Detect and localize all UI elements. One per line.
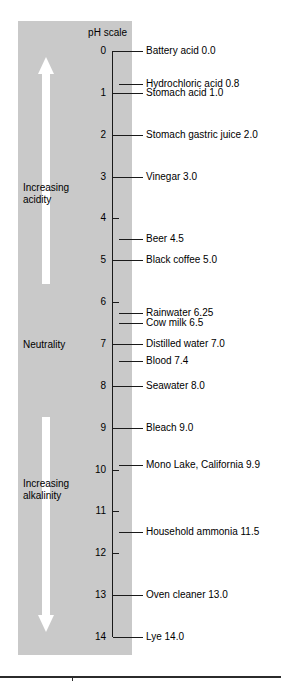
ph-axis-tick [113, 302, 119, 303]
ph-axis-tick-label: 0 [72, 46, 106, 56]
substance-leader-line [119, 135, 143, 136]
substance-label: Stomach gastric juice 2.0 [146, 130, 258, 140]
arrow-down-shaft [42, 417, 50, 617]
substance-label: Black coffee 5.0 [146, 255, 217, 265]
ph-axis-tick-label: 8 [72, 381, 106, 391]
substance-leader-line [119, 361, 143, 362]
substance-leader-line [119, 428, 143, 429]
annotation-increasing-alkalinity-line1: Increasing [23, 478, 95, 490]
substance-leader-line [119, 260, 143, 261]
ph-axis-tick-label: 10 [72, 465, 106, 475]
ph-axis-tick-label: 2 [72, 130, 106, 140]
substance-label: Oven cleaner 13.0 [146, 590, 228, 600]
ph-axis-tick-label: 3 [72, 172, 106, 182]
ph-axis-tick [113, 511, 119, 512]
substance-label: Household ammonia 11.5 [146, 527, 259, 537]
footer-divider-tick [72, 677, 73, 681]
substance-label: Distilled water 7.0 [146, 339, 225, 349]
substance-label: Mono Lake, California 9.9 [146, 460, 260, 470]
ph-axis-tick-label: 14 [72, 632, 106, 642]
substance-label: Lye 14.0 [146, 632, 184, 642]
substance-leader-line [119, 595, 143, 596]
ph-axis-tick-label: 4 [72, 213, 106, 223]
increasing-alkalinity-arrow-icon [38, 417, 54, 632]
substance-leader-line [119, 51, 143, 52]
substance-leader-line [119, 386, 143, 387]
substance-leader-line [119, 637, 143, 638]
ph-scale-panel [18, 21, 132, 655]
ph-axis-tick-label: 12 [72, 548, 106, 558]
substance-label: Cow milk 6.5 [146, 318, 203, 328]
substance-leader-line [119, 313, 143, 314]
substance-leader-line [119, 465, 143, 466]
increasing-acidity-arrow-icon [38, 57, 54, 284]
ph-axis-tick-label: 7 [72, 339, 106, 349]
ph-scale-title: pH scale [55, 27, 127, 39]
annotation-increasing-acidity: Increasing acidity [23, 182, 95, 205]
annotation-increasing-acidity-line2: acidity [23, 194, 95, 206]
annotation-increasing-alkalinity: Increasing alkalinity [23, 478, 95, 501]
substance-label: Stomach acid 1.0 [146, 88, 223, 98]
ph-axis-tick-label: 13 [72, 590, 106, 600]
substance-leader-line [119, 323, 143, 324]
substance-label: Beer 4.5 [146, 234, 184, 244]
substance-leader-line [119, 177, 143, 178]
arrow-up-shaft [42, 72, 50, 284]
substance-leader-line [119, 84, 143, 85]
ph-axis-tick [113, 218, 119, 219]
substance-label: Vinegar 3.0 [146, 172, 197, 182]
substance-label: Battery acid 0.0 [146, 46, 215, 56]
footer-divider [0, 676, 281, 678]
ph-axis-tick-label: 1 [72, 88, 106, 98]
substance-leader-line [119, 532, 143, 533]
annotation-increasing-alkalinity-line2: alkalinity [23, 490, 95, 502]
substance-leader-line [119, 344, 143, 345]
ph-axis-tick [113, 553, 119, 554]
ph-axis-tick-label: 11 [72, 506, 106, 516]
annotation-increasing-acidity-line1: Increasing [23, 182, 95, 194]
substance-label: Bleach 9.0 [146, 423, 193, 433]
substance-leader-line [119, 239, 143, 240]
arrow-down-head-icon [38, 615, 54, 632]
ph-axis-tick-label: 6 [72, 297, 106, 307]
substance-label: Blood 7.4 [146, 356, 188, 366]
ph-axis-tick [113, 470, 119, 471]
substance-leader-line [119, 93, 143, 94]
ph-axis-tick-label: 9 [72, 423, 106, 433]
ph-axis-tick-label: 5 [72, 255, 106, 265]
substance-label: Seawater 8.0 [146, 381, 205, 391]
